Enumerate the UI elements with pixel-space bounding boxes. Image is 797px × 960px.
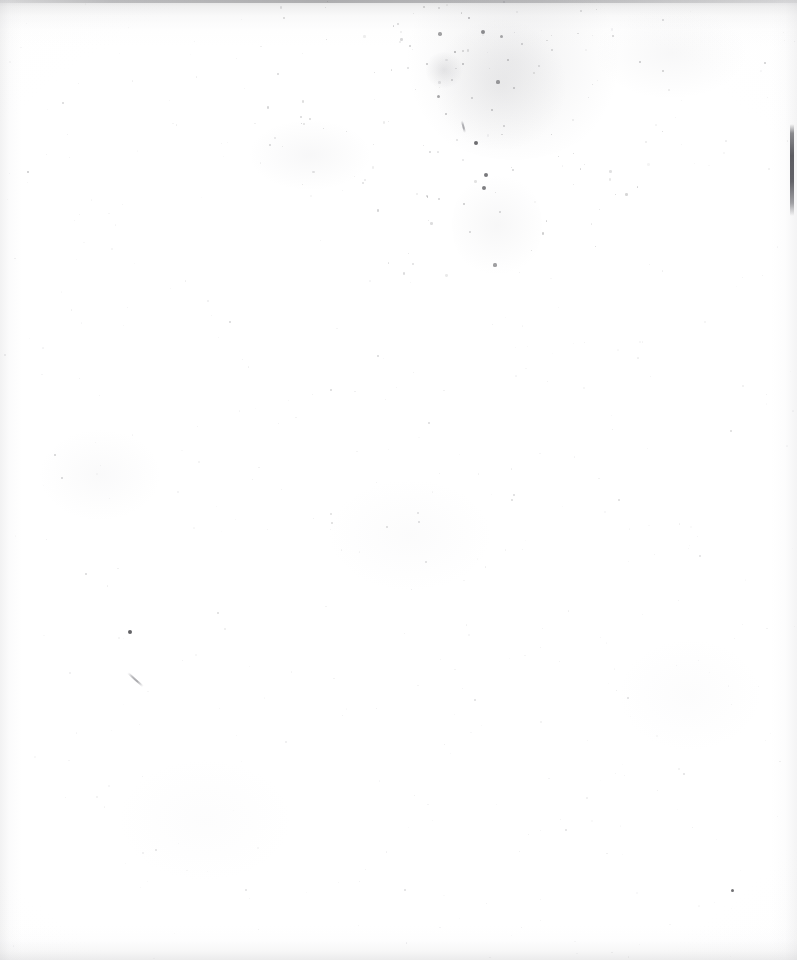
paper-background [0,0,797,960]
scanned-page [0,0,797,960]
